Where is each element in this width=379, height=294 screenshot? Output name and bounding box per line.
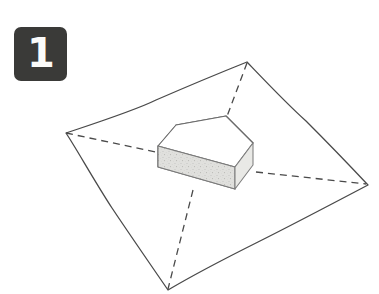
diagram-canvas: 1	[0, 0, 379, 294]
step-number-badge: 1	[14, 27, 67, 81]
step-number-label: 1	[27, 33, 54, 73]
